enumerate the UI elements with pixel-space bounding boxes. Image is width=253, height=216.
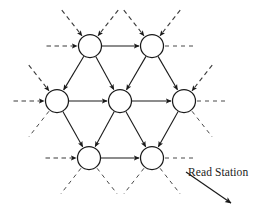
boundary-edge: [29, 65, 49, 91]
boundary-edge: [29, 111, 49, 137]
boundary-edge: [160, 10, 180, 36]
graph-edge: [63, 111, 83, 146]
diagram-canvas: Read Station: [0, 0, 253, 216]
graph-node: [109, 90, 132, 113]
boundary-edge: [61, 168, 81, 194]
graph-node: [46, 90, 69, 113]
node-graph-svg: [0, 0, 253, 216]
graph-edge: [127, 56, 146, 89]
node-layer: [46, 35, 196, 170]
graph-edge: [126, 111, 146, 146]
graph-node: [141, 147, 164, 170]
boundary-edge: [160, 168, 180, 194]
graph-edge: [95, 112, 114, 147]
boundary-edge: [62, 10, 82, 36]
graph-edge: [158, 56, 177, 89]
boundary-edge: [97, 168, 117, 194]
boundary-edge: [124, 10, 144, 36]
graph-edge: [96, 57, 114, 90]
boundary-edge: [98, 10, 118, 36]
boundary-edge: [192, 111, 212, 137]
graph-node: [79, 35, 102, 58]
graph-node: [173, 90, 196, 113]
graph-node: [141, 35, 164, 58]
boundary-edge: [192, 65, 212, 91]
read-station-label: Read Station: [188, 166, 248, 178]
boundary-edge: [124, 168, 144, 194]
graph-edge: [64, 56, 84, 90]
graph-node: [78, 147, 101, 170]
graph-edge: [158, 111, 178, 146]
